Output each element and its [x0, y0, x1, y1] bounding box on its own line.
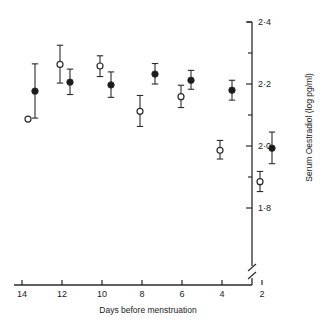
open-circle-marker: [137, 108, 143, 114]
data-point-group: [188, 70, 194, 89]
filled-circle-marker: [32, 88, 38, 94]
open-circle-marker: [178, 94, 184, 100]
data-point-group: [178, 85, 184, 107]
x-axis-tick-label: 4: [219, 289, 224, 299]
x-axis-tick-label: 10: [97, 289, 107, 299]
filled-circle-marker: [67, 79, 73, 85]
x-axis-tick-label: 12: [57, 289, 67, 299]
filled-circle-marker: [108, 82, 114, 88]
filled-circle-marker: [269, 145, 275, 151]
data-point-group: [229, 80, 235, 100]
y-axis-title: Serum Oestradiol (log pg/ml): [304, 73, 314, 182]
data-point-group: [137, 95, 143, 126]
y-axis-tick-label: 1·8: [258, 203, 271, 213]
filled-circle-marker: [152, 71, 158, 77]
data-point-group: [108, 72, 114, 97]
scatter-plot-svg: 2·42·22·01·81412108642Days before menstr…: [0, 0, 323, 327]
x-axis-tick-label: 2: [259, 289, 264, 299]
x-axis-tick-label: 14: [17, 289, 27, 299]
data-point-group: [25, 116, 31, 122]
filled-circle-marker: [188, 77, 194, 83]
data-point-group: [217, 140, 223, 159]
open-circle-marker: [97, 63, 103, 69]
data-point-group: [32, 64, 38, 118]
y-axis-tick-label: 2·2: [258, 79, 271, 89]
data-point-group: [152, 64, 158, 84]
filled-circle-marker: [229, 87, 235, 93]
axis-break-icon: [248, 272, 256, 279]
x-axis-tick-label: 6: [179, 289, 184, 299]
x-axis-tick-label: 8: [139, 289, 144, 299]
data-point-group: [257, 171, 263, 191]
y-axis-tick-label: 2·4: [258, 17, 271, 27]
x-axis-title: Days before menstruation: [99, 305, 197, 315]
chart-figure: 2·42·22·01·81412108642Days before menstr…: [0, 0, 323, 327]
data-point-group: [97, 56, 103, 77]
open-circle-marker: [57, 61, 63, 67]
data-point-group: [67, 69, 73, 94]
open-circle-marker: [217, 147, 223, 153]
data-point-group: [269, 132, 275, 164]
open-circle-marker: [25, 116, 31, 122]
open-circle-marker: [257, 179, 263, 185]
data-point-group: [57, 45, 63, 83]
